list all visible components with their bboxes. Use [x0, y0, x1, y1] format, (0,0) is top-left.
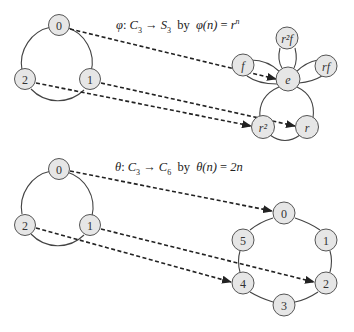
- svg-text:1: 1: [87, 73, 93, 87]
- svg-text:2: 2: [22, 219, 28, 233]
- edge-e-r: [297, 87, 313, 118]
- phi-mappings: [36, 29, 295, 126]
- phi-target-node-f: f: [232, 54, 254, 76]
- domain-group: C: [130, 18, 138, 32]
- edge-e-rf-lower: [299, 76, 322, 83]
- codomain-group: C: [159, 160, 167, 174]
- edge-e-r2f-left: [279, 48, 282, 68]
- edge-0-1: [67, 172, 93, 216]
- edge-2-0: [21, 171, 51, 214]
- edge-1-2: [330, 251, 332, 272]
- svg-text:r²: r²: [259, 121, 268, 135]
- theta-target-node-2: 2: [315, 272, 337, 294]
- theta-target-node-4: 4: [232, 272, 254, 294]
- map-2-to-4: [36, 228, 231, 282]
- formula-eq: =: [220, 160, 227, 174]
- svg-text:0: 0: [56, 19, 62, 33]
- edge-0-1: [295, 218, 320, 230]
- theta-mappings: [36, 171, 314, 282]
- by-label: by: [177, 160, 190, 174]
- edge-2-0: [21, 27, 51, 70]
- by-label: by: [177, 18, 190, 32]
- domain-subscript: 3: [136, 168, 140, 177]
- edge-4-5: [239, 251, 241, 272]
- theta-title: θ: C3 → C6 by θ(n) = 2n: [115, 160, 243, 177]
- svg-text:3: 3: [281, 299, 287, 313]
- theta-source-node-1: 1: [80, 215, 101, 236]
- theta-source-node-2: 2: [15, 215, 36, 236]
- formula-rhs: 2n: [230, 160, 243, 174]
- svg-text:0: 0: [281, 207, 287, 221]
- theta-target-node-3: 3: [273, 294, 295, 316]
- svg-text:1: 1: [323, 234, 329, 248]
- svg-text:4: 4: [240, 277, 246, 291]
- phi-source-node-1: 1: [80, 69, 101, 90]
- svg-text:5: 5: [240, 234, 246, 248]
- formula-superscript: n: [236, 17, 240, 26]
- phi-source-node-0: 0: [49, 15, 70, 36]
- edge-e-r2: [260, 87, 279, 118]
- edge-e-f-upper: [251, 60, 280, 72]
- svg-text:r: r: [305, 121, 310, 135]
- edge-e-r2f-right: [294, 48, 296, 68]
- edge-r2-r: [270, 135, 300, 141]
- theta-target-node-5: 5: [232, 229, 254, 251]
- arrow-icon: →: [145, 18, 158, 32]
- svg-text:2: 2: [22, 73, 28, 87]
- domain-subscript: 3: [138, 26, 142, 35]
- edge-0-1: [66, 27, 92, 72]
- theta-target-node-1: 1: [315, 229, 337, 251]
- formula-lhs: φ(n): [196, 18, 218, 32]
- map-0-to-0: [70, 171, 272, 211]
- svg-text:r²f: r²f: [281, 32, 294, 46]
- formula-lhs: θ(n): [196, 160, 217, 174]
- edge-5-0: [250, 218, 273, 230]
- edge-e-f-lower: [247, 76, 277, 84]
- map-symbol: φ: [116, 18, 123, 32]
- phi-target-node-r2: r²: [252, 116, 275, 139]
- map-2-to-r2: [36, 83, 251, 126]
- formula-eq: =: [221, 18, 228, 32]
- phi-target-node-r: r: [296, 116, 319, 139]
- svg-text:2: 2: [323, 277, 329, 291]
- codomain-subscript: 6: [167, 168, 171, 177]
- arrow-icon: →: [143, 160, 156, 174]
- phi-source-cycle-c3: [21, 27, 92, 101]
- svg-text:0: 0: [56, 163, 62, 177]
- edge-2-3: [295, 292, 318, 302]
- svg-text:e: e: [285, 73, 291, 87]
- codomain-subscript: 3: [167, 26, 171, 35]
- phi-source-node-2: 2: [15, 69, 36, 90]
- theta-source-node-0: 0: [49, 159, 70, 180]
- domain-group: C: [128, 160, 136, 174]
- svg-text:1: 1: [87, 219, 93, 233]
- colon: :: [123, 18, 126, 32]
- edge-3-4: [250, 292, 273, 302]
- phi-target-node-e: e: [276, 67, 300, 91]
- phi-target-node-r2f: r²f: [276, 27, 298, 49]
- colon: :: [121, 160, 124, 174]
- phi-target-node-rf: rf: [315, 55, 337, 77]
- theta-target-node-0: 0: [273, 202, 295, 224]
- phi-title: φ: C3 → S3 by φ(n) = rn: [116, 17, 240, 35]
